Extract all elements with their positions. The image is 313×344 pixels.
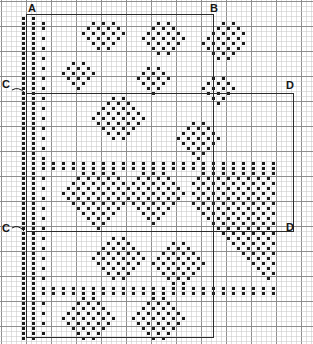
cross-stitch-chart: ABCDCD [0, 0, 313, 344]
label-c-bottom-leader [0, 0, 313, 344]
label-d-bottom: D [286, 222, 294, 233]
